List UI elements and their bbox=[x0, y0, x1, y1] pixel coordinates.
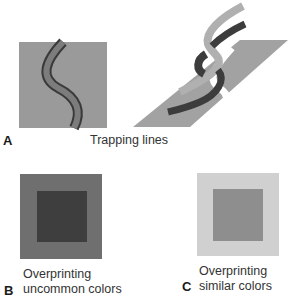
panel-b-caption-line1: Overprinting bbox=[23, 267, 91, 281]
panel-c-inner-square bbox=[213, 189, 263, 241]
panel-c-caption-line2: similar colors bbox=[199, 279, 272, 293]
panel-a-square-graphic bbox=[19, 42, 107, 128]
figure-canvas bbox=[0, 0, 296, 299]
panel-c-graphic bbox=[197, 173, 279, 256]
panel-c-letter: C bbox=[182, 279, 191, 294]
panel-b-graphic bbox=[20, 174, 102, 259]
dark-middle-stroke bbox=[198, 54, 206, 74]
panel-a-letter: A bbox=[3, 133, 12, 148]
panel-a-caption: Trapping lines bbox=[90, 133, 168, 147]
panel-c-caption-line1: Overprinting bbox=[199, 264, 267, 278]
panel-b-letter: B bbox=[4, 283, 13, 298]
panel-a-parallelogram-graphic bbox=[133, 6, 288, 127]
panel-b-inner-square bbox=[37, 191, 87, 242]
panel-b-caption-line2: uncommon colors bbox=[23, 282, 122, 296]
